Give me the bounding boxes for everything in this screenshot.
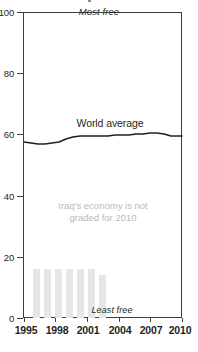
x-tick-2004 bbox=[119, 318, 120, 322]
x-label-2010: 2010 bbox=[169, 325, 192, 336]
x-tick-2010 bbox=[182, 318, 183, 322]
y-label-20: 20 bbox=[0, 253, 14, 263]
y-label-80: 80 bbox=[0, 69, 14, 79]
y-tick-60 bbox=[17, 134, 23, 135]
y-label-40: 40 bbox=[0, 192, 14, 202]
y-tick-100 bbox=[17, 12, 23, 13]
y-tick-40 bbox=[17, 196, 23, 197]
x-tick-2001 bbox=[87, 318, 88, 322]
x-tick-1995 bbox=[24, 318, 25, 322]
y-tick-20 bbox=[17, 257, 23, 258]
x-label-2004: 2004 bbox=[109, 325, 132, 336]
y-tick-0 bbox=[17, 318, 23, 319]
y-label-60: 60 bbox=[0, 130, 14, 140]
world-average-line bbox=[0, 0, 198, 352]
x-label-1998: 1998 bbox=[46, 325, 69, 336]
y-label-100: 100 bbox=[0, 8, 14, 18]
x-tick-1998 bbox=[55, 318, 56, 322]
series-label-world-average: World average bbox=[55, 117, 165, 129]
x-label-2001: 2001 bbox=[77, 325, 100, 336]
x-tick-2007 bbox=[150, 318, 151, 322]
x-label-2007: 2007 bbox=[140, 325, 163, 336]
iraq-not-graded-note: Iraq's economy is not graded for 2010 bbox=[26, 200, 180, 224]
y-label-0: 0 bbox=[0, 314, 14, 324]
note-line-1: Iraq's economy is not bbox=[26, 200, 180, 212]
least-free-annotation: Least free bbox=[62, 305, 162, 315]
economic-freedom-chart: Most free World average Iraq's economy i… bbox=[0, 0, 198, 352]
note-line-2: graded for 2010 bbox=[26, 212, 180, 224]
x-label-1995: 1995 bbox=[15, 325, 38, 336]
y-tick-80 bbox=[17, 73, 23, 74]
